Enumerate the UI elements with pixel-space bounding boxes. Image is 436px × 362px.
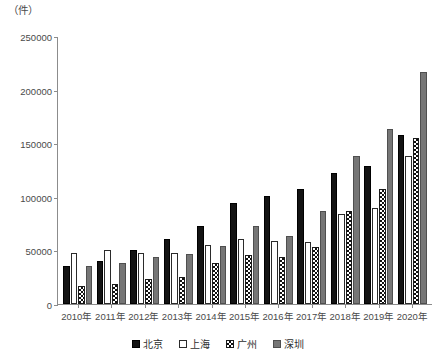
x-axis-label: 2011年 xyxy=(94,309,128,323)
x-axis-label: 2020年 xyxy=(395,309,429,323)
bar-group xyxy=(362,37,395,304)
legend-item[interactable]: 北京 xyxy=(132,336,163,351)
x-axis-label: 2015年 xyxy=(228,309,262,323)
bar xyxy=(253,226,260,304)
bar xyxy=(364,166,371,304)
bar xyxy=(78,286,85,304)
bar-group xyxy=(195,37,228,304)
legend-swatch-icon xyxy=(179,340,187,348)
legend-swatch-icon xyxy=(226,340,234,348)
bar xyxy=(145,279,152,304)
bar xyxy=(398,135,405,304)
y-axis-tick-label: 100000 xyxy=(20,192,52,203)
bar xyxy=(97,261,104,304)
x-axis-label: 2014年 xyxy=(194,309,228,323)
legend-label: 北京 xyxy=(143,336,163,351)
bar xyxy=(153,257,160,304)
bar xyxy=(305,242,312,304)
chart-legend: 北京上海广州深圳 xyxy=(0,336,436,351)
legend-label: 广州 xyxy=(237,336,257,351)
bar xyxy=(286,236,293,304)
x-axis-label: 2017年 xyxy=(295,309,329,323)
bar xyxy=(413,138,420,304)
legend-swatch-icon xyxy=(273,340,281,348)
bar-groups xyxy=(58,37,432,304)
bar xyxy=(312,247,319,304)
plot-area: 050000100000150000200000250000 xyxy=(57,37,432,305)
legend-swatch-icon xyxy=(132,340,140,348)
bar xyxy=(138,253,145,304)
bar xyxy=(63,266,70,304)
bar xyxy=(130,250,137,304)
bar xyxy=(279,257,286,304)
bar-group xyxy=(161,37,194,304)
bar xyxy=(353,156,360,304)
bar-group xyxy=(329,37,362,304)
bar xyxy=(387,129,394,304)
x-axis-label: 2019年 xyxy=(362,309,396,323)
y-axis-tick-label: 50000 xyxy=(26,246,52,257)
bar xyxy=(420,72,427,304)
bar xyxy=(331,173,338,304)
bar xyxy=(164,239,171,304)
bar xyxy=(372,208,379,304)
bar-group xyxy=(94,37,127,304)
bar xyxy=(179,277,186,304)
x-axis-label: 2012年 xyxy=(127,309,161,323)
bar xyxy=(220,246,227,304)
bar xyxy=(86,266,93,304)
x-axis-labels: 2010年2011年2012年2013年2014年2015年2016年2017年… xyxy=(57,309,432,323)
x-axis-label: 2010年 xyxy=(60,309,94,323)
x-axis-label: 2016年 xyxy=(261,309,295,323)
bar xyxy=(264,196,271,304)
y-axis-tick-label: 250000 xyxy=(20,32,52,43)
bar-group xyxy=(295,37,328,304)
legend-label: 上海 xyxy=(190,336,210,351)
y-axis-tick-label: 150000 xyxy=(20,139,52,150)
y-axis-tick-label: 0 xyxy=(47,300,52,311)
legend-item[interactable]: 上海 xyxy=(179,336,210,351)
x-axis-label: 2018年 xyxy=(328,309,362,323)
bar xyxy=(271,241,278,304)
bar xyxy=(119,263,126,304)
bar xyxy=(104,250,111,304)
bar xyxy=(338,214,345,304)
bar xyxy=(212,263,219,304)
bar xyxy=(71,253,78,304)
bar xyxy=(171,253,178,304)
bar-group xyxy=(61,37,94,304)
bar-group xyxy=(228,37,261,304)
bar xyxy=(297,189,304,304)
bar xyxy=(205,245,212,304)
bar xyxy=(112,284,119,304)
bar xyxy=(320,211,327,304)
bar-group xyxy=(396,37,429,304)
bar xyxy=(346,211,353,304)
y-axis-tick-label: 200000 xyxy=(20,85,52,96)
y-axis-unit-label: （件） xyxy=(8,2,38,17)
bar-chart: （件） 050000100000150000200000250000 2010年… xyxy=(0,0,436,362)
bar-group xyxy=(262,37,295,304)
bar xyxy=(245,255,252,304)
bar xyxy=(186,254,193,304)
y-axis-tick-mark xyxy=(54,305,58,306)
bar xyxy=(197,226,204,304)
legend-label: 深圳 xyxy=(284,336,304,351)
x-axis-label: 2013年 xyxy=(161,309,195,323)
legend-item[interactable]: 深圳 xyxy=(273,336,304,351)
bar xyxy=(238,239,245,304)
bar xyxy=(230,203,237,304)
bar xyxy=(405,156,412,304)
bar-group xyxy=(128,37,161,304)
bar xyxy=(379,189,386,304)
legend-item[interactable]: 广州 xyxy=(226,336,257,351)
